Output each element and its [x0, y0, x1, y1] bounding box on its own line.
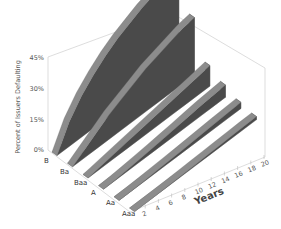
- category-label-ba: Ba: [60, 168, 69, 176]
- y-tick-label: 30%: [30, 85, 44, 93]
- category-axis: B Ba Baa A Aa Aaa: [44, 157, 135, 218]
- y-tick-label: 15%: [30, 116, 44, 124]
- category-label-aa: Aa: [106, 199, 115, 207]
- y-axis-label: Percent of Issuers Defaulting: [14, 60, 22, 154]
- y-axis: 45% 30% 15% 0% Percent of Issuers Defaul…: [14, 54, 44, 154]
- x-tick-label: 14: [220, 175, 231, 186]
- x-tick-label: 4: [154, 204, 161, 213]
- x-tick-label: 18: [247, 164, 258, 175]
- x-tick-label: 6: [167, 198, 174, 207]
- category-label-baa: Baa: [74, 179, 87, 187]
- y-tick-label: 45%: [30, 54, 44, 62]
- category-label-b: B: [44, 157, 49, 165]
- y-tick-label: 0%: [34, 146, 44, 154]
- x-tick-label: 8: [181, 193, 188, 202]
- x-tick-label: 20: [260, 158, 271, 169]
- chart-3d-ribbon: 45% 30% 15% 0% Percent of Issuers Defaul…: [0, 0, 281, 229]
- category-label-a: A: [91, 189, 96, 197]
- x-tick-label: 16: [233, 169, 244, 180]
- category-label-aaa: Aaa: [122, 210, 135, 218]
- x-tick-label: 2: [141, 209, 148, 218]
